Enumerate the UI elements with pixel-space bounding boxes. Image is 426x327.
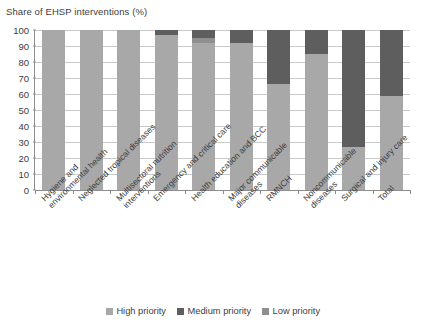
legend-label: Medium priority <box>188 306 252 316</box>
legend-swatch-icon <box>106 308 113 315</box>
y-tick-label: 70 <box>18 73 29 84</box>
y-tick-label: 90 <box>18 41 29 52</box>
y-tick-label: 60 <box>18 89 29 100</box>
bar-segment <box>230 43 253 190</box>
y-axis-tick-labels: 1009080706050403020100 <box>0 30 33 190</box>
bar-segment <box>42 30 65 190</box>
legend-label: High priority <box>116 306 166 316</box>
y-tick-label: 10 <box>18 169 29 180</box>
bar-segment <box>380 30 403 96</box>
bar-2[interactable] <box>117 30 140 190</box>
bar-segment <box>342 30 365 147</box>
bar-7[interactable] <box>305 30 328 190</box>
legend-item-0[interactable]: High priority <box>106 306 166 316</box>
y-tick-label: 80 <box>18 57 29 68</box>
legend-swatch-icon <box>262 308 269 315</box>
bar-segment <box>230 30 253 43</box>
bar-segment <box>192 43 215 190</box>
legend-label: Low priority <box>273 306 321 316</box>
bar-segment <box>117 30 140 190</box>
bar-segment <box>267 30 290 84</box>
legend-item-1[interactable]: Medium priority <box>177 306 251 316</box>
y-tick-label: 100 <box>13 25 29 36</box>
bar-0[interactable] <box>42 30 65 190</box>
y-tick-label: 30 <box>18 137 29 148</box>
bar-segment <box>305 54 328 190</box>
bar-4[interactable] <box>192 30 215 190</box>
y-tick-label: 20 <box>18 153 29 164</box>
bar-segment <box>192 30 215 38</box>
y-axis-title: Share of EHSP interventions (%) <box>6 6 147 17</box>
x-axis-category-labels: Hygiene andenvironmental healthNeglected… <box>0 190 426 295</box>
y-tick-label: 40 <box>18 121 29 132</box>
chart-legend: High priorityMedium priorityLow priority <box>0 306 426 316</box>
stacked-bar-chart: Share of EHSP interventions (%) 10090807… <box>0 0 426 327</box>
legend-item-2[interactable]: Low priority <box>262 306 320 316</box>
legend-swatch-icon <box>177 308 184 315</box>
y-tick-label: 50 <box>18 105 29 116</box>
bar-segment <box>305 30 328 54</box>
